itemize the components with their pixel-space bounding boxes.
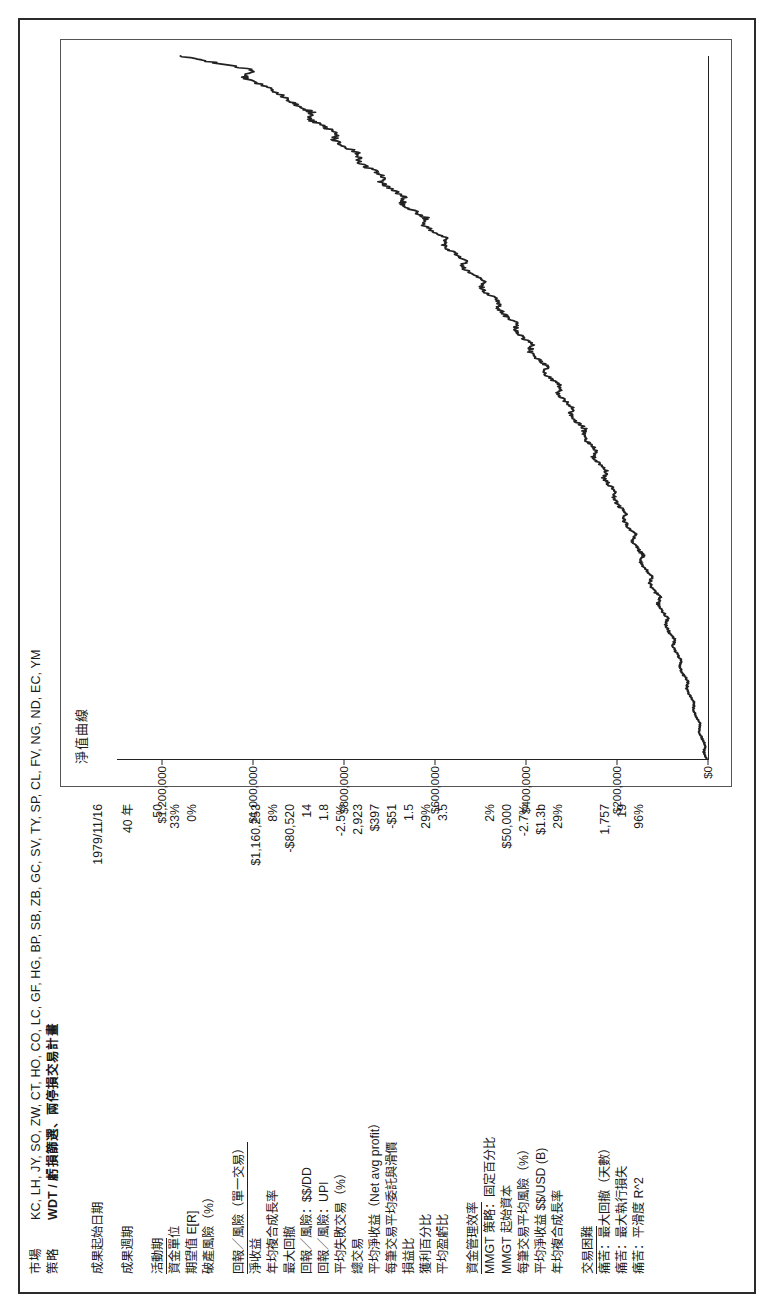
- stat-label: 年均複合成長率: [550, 841, 566, 1274]
- stat-row: 痛苦：最大回撤（天數）1,757: [597, 804, 614, 1274]
- stat-value: 1.8: [316, 804, 332, 833]
- market-value: KC, LH, JY, SO, ZW, CT, HO, CO, LC, GF, …: [28, 650, 45, 1220]
- stat-row: 每筆交易平均委託與滑價-$51: [384, 804, 401, 1274]
- stat-spacer: [218, 804, 231, 1274]
- stat-label: 最大回撤: [282, 865, 298, 1274]
- chart-title: 淨值曲線: [71, 708, 90, 764]
- stat-value: 96%: [631, 804, 647, 841]
- stat-label: 回報／風險：$$/DD: [299, 830, 315, 1274]
- strategy-value: WDT / 虧損篩選、兩停損交易計畫: [45, 1023, 62, 1220]
- stat-value: 0%: [184, 804, 200, 834]
- stat-label: 獲利百分比: [418, 841, 434, 1274]
- stat-spacer: [137, 804, 150, 1274]
- stat-value: 14: [299, 804, 315, 830]
- equity-curve-line: [117, 56, 708, 759]
- stat-label: 損益比: [401, 833, 417, 1274]
- stat-label: 活動期: [150, 1238, 167, 1274]
- stat-label: 交易困難: [580, 1226, 597, 1274]
- y-axis-tick-label: $600,000: [429, 759, 441, 814]
- statistics-table: 成果起始日期1979/11/16成果週期40 年活動期50資金單位33%期望值 …: [90, 804, 648, 1274]
- stat-row: 回報／風險：$$/DD14: [299, 804, 316, 1274]
- strategy-label: 策略: [45, 1220, 62, 1274]
- stat-value: 2%: [482, 804, 498, 834]
- stat-value: 40 年: [120, 804, 136, 845]
- stat-row: 損益比1.5: [401, 804, 418, 1274]
- stat-row: 資金管理效率: [465, 804, 482, 1274]
- report-sheet: 市場 KC, LH, JY, SO, ZW, CT, HO, CO, LC, G…: [18, 18, 756, 1294]
- stat-value: 1979/11/16: [90, 804, 106, 877]
- stat-row: 痛苦：平滑度 R^296%: [631, 804, 648, 1274]
- report-page: 市場 KC, LH, JY, SO, ZW, CT, HO, CO, LC, G…: [0, 0, 774, 1308]
- stat-value: $397: [367, 804, 383, 843]
- stat-label: MMGT 起始資本: [499, 860, 515, 1274]
- stat-row: 回報／風險（單一交易）: [231, 804, 248, 1274]
- stat-row: 總交易2,923: [350, 804, 367, 1274]
- y-axis-tick-label: $800,000: [338, 759, 350, 814]
- stat-row: MMGT 策略：固定百分比2%: [482, 804, 499, 1274]
- stat-row: 年均複合成長率29%: [550, 804, 567, 1274]
- stat-row: 平均盈虧比3.5: [435, 804, 452, 1274]
- stat-row: 每筆交易平均風險（%）-2.7%: [516, 804, 533, 1274]
- stat-row: 平均淨收益 $$/USD (B)$1.3b: [533, 804, 550, 1274]
- stat-label: MMGT 策略：固定百分比: [482, 834, 498, 1274]
- chart-plot-area: $0$200,000$400,000$600,000$800,000$1,000…: [117, 56, 709, 760]
- market-label: 市場: [28, 1220, 45, 1274]
- stat-row: 平均失敗交易（%）-2.5%: [333, 804, 350, 1274]
- report-header: 市場 KC, LH, JY, SO, ZW, CT, HO, CO, LC, G…: [28, 38, 62, 1274]
- stat-row: 獲利百分比29%: [418, 804, 435, 1274]
- stat-label: 期望值 E[R]: [184, 834, 200, 1274]
- stat-label: 年均複合成長率: [265, 834, 281, 1274]
- stat-label: 平均失敗交易（%）: [333, 848, 349, 1274]
- stat-value: 29%: [550, 804, 566, 841]
- equity-curve-chart: 淨值曲線 $0$200,000$400,000$600,000$800,000$…: [60, 39, 732, 787]
- stat-label: 成果週期: [120, 845, 136, 1274]
- stat-value: 1.5: [401, 804, 417, 833]
- stat-label: 資金管理效率: [465, 1202, 482, 1274]
- header-row-market: 市場 KC, LH, JY, SO, ZW, CT, HO, CO, LC, G…: [28, 38, 45, 1274]
- stat-row: 活動期50: [150, 804, 167, 1274]
- stat-label: 回報／風險：UPI: [316, 833, 332, 1274]
- stat-row: 交易困難: [580, 804, 597, 1274]
- stat-label: 回報／風險（單一交易）: [231, 1142, 248, 1274]
- stat-row: 資金單位33%: [167, 804, 184, 1274]
- stat-spacer: [107, 804, 120, 1274]
- stat-row: 痛苦：最大執行損失19: [614, 804, 631, 1274]
- y-axis-tick-label: $1,200,000: [156, 759, 168, 824]
- stat-label: 成果起始日期: [90, 877, 106, 1274]
- stat-label: 痛苦：平滑度 R^2: [631, 841, 647, 1274]
- stat-row: 期望值 E[R]0%: [184, 804, 201, 1274]
- stat-row: 破產風險（%）: [201, 804, 218, 1274]
- stat-label: 痛苦：最大回撤（天數）: [597, 847, 613, 1274]
- stat-value: -$51: [384, 804, 400, 841]
- stat-value: 8%: [265, 804, 281, 834]
- stat-label: 淨收益: [248, 878, 264, 1274]
- stat-row: 淨收益$1,160,253: [248, 804, 265, 1274]
- stat-row: 成果起始日期1979/11/16: [90, 804, 107, 1274]
- stat-row: 回報／風險：UPI1.8: [316, 804, 333, 1274]
- stat-label: 破產風險（%）: [201, 816, 217, 1274]
- stat-label: 資金單位: [167, 841, 183, 1274]
- stat-value: -$80,520: [282, 804, 298, 865]
- stat-row: 平均淨收益（Net avg profit）$397: [367, 804, 384, 1274]
- stat-label: 平均盈虧比: [435, 833, 451, 1274]
- stat-value: 33%: [167, 804, 183, 841]
- stat-value: 2,923: [350, 804, 366, 847]
- stat-label: 每筆交易平均委託與滑價: [384, 841, 400, 1274]
- stat-spacer: [567, 804, 580, 1274]
- stat-row: 成果週期40 年: [120, 804, 137, 1274]
- stat-label: 痛苦：最大執行損失: [614, 830, 630, 1274]
- stat-value: $1.3b: [533, 804, 549, 847]
- stat-label: 總交易: [350, 847, 366, 1274]
- stat-label: 平均淨收益 $$/USD (B): [533, 847, 549, 1274]
- y-axis-tick-label: $400,000: [520, 759, 532, 814]
- stat-row: 最大回撤-$80,520: [282, 804, 299, 1274]
- stat-value: $50,000: [499, 804, 515, 860]
- stat-label: 平均淨收益（Net avg profit）: [367, 843, 383, 1274]
- y-axis-tick-label: $0: [702, 759, 714, 779]
- stat-row: 年均複合成長率8%: [265, 804, 282, 1274]
- stat-label: 每筆交易平均風險（%）: [516, 848, 532, 1274]
- stat-spacer: [452, 804, 465, 1274]
- stat-row: MMGT 起始資本$50,000: [499, 804, 516, 1274]
- y-axis-tick-label: $1,000,000: [247, 759, 259, 824]
- y-axis-tick-label: $200,000: [611, 759, 623, 814]
